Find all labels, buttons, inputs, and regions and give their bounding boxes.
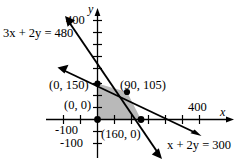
y-tick-label-400: 400 — [66, 14, 85, 27]
point-label-90-105: (90, 105) — [120, 79, 166, 92]
y-axis-label: y — [88, 3, 93, 15]
point-marker-0-150 — [94, 80, 100, 86]
graph-figure: y x 400 -100 -100 400 3x + 2y = 480 x + … — [0, 0, 238, 162]
y-tick-label-neg100: -100 — [60, 137, 83, 150]
x-tick-label-400: 400 — [188, 101, 207, 114]
x-axis-label: x — [220, 106, 225, 118]
x-axis-arrowhead — [226, 117, 234, 123]
point-marker-160-0 — [138, 116, 145, 123]
point-label-0-0: (0, 0) — [64, 99, 91, 112]
equation-label-x-2y-300: x + 2y = 300 — [167, 139, 231, 152]
point-label-160-0: (160, 0) — [101, 128, 141, 141]
point-label-0-150: (0, 150) — [49, 79, 89, 92]
y-axis-arrowhead — [95, 8, 101, 16]
x-tick-label-neg100: -100 — [55, 124, 78, 137]
equation-label-3x-2y-480: 3x + 2y = 480 — [3, 27, 73, 40]
point-marker-0-0 — [94, 116, 101, 123]
